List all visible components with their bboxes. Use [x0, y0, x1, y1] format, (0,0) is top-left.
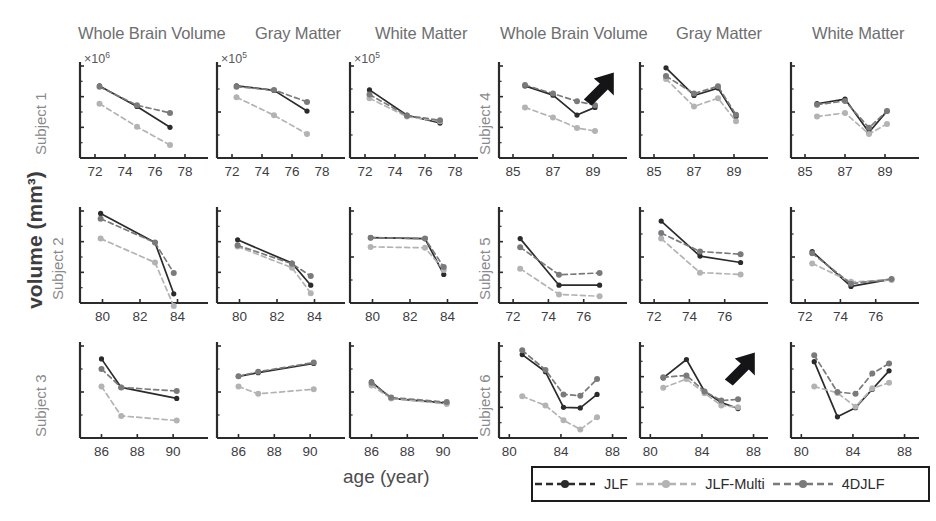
data-point-jlf	[174, 396, 179, 401]
data-point-4djlf	[542, 367, 548, 373]
series-line-jlf	[520, 239, 599, 286]
legend-swatch-jlf-multi	[634, 476, 698, 492]
column-title-whole-brain-volume: Whole Brain Volume	[78, 24, 226, 43]
data-point-4djlf	[235, 242, 241, 248]
x-tick-label: 82	[132, 309, 147, 324]
x-tick-label: 88	[605, 444, 620, 459]
column-title-white-matter: White Matter	[375, 24, 467, 43]
legend-item-jlf: JLF	[533, 476, 634, 492]
x-tick-label: 90	[303, 444, 318, 459]
x-tick-label: 76	[147, 164, 162, 179]
series-line-4djlf	[525, 85, 595, 105]
data-point-jlf	[518, 236, 523, 241]
x-tick-label: 90	[436, 444, 451, 459]
x-tick-label: 80	[365, 309, 380, 324]
subject-label-subject-2: Subject 2	[49, 237, 66, 300]
x-tick-label: 89	[726, 164, 741, 179]
data-point-jlf-multi	[550, 115, 556, 121]
series-line-4djlf	[238, 363, 313, 377]
x-tick-label: 74	[117, 164, 133, 179]
x-tick-label: 72	[357, 164, 372, 179]
data-point-4djlf	[869, 371, 875, 377]
x-tick-label: 80	[95, 309, 110, 324]
data-point-jlf-multi	[255, 391, 261, 397]
x-tick-label: 87	[686, 164, 701, 179]
data-point-jlf-multi	[542, 402, 548, 408]
plot-s2-wm: 4.955.1808284	[348, 207, 486, 327]
subject-label-subject-3: Subject 3	[32, 374, 49, 437]
data-point-jlf-multi	[842, 110, 848, 116]
x-tick-label: 84	[170, 309, 186, 324]
data-point-4djlf	[368, 380, 374, 386]
plot-s3-gm: 6.36.46.5868890	[215, 342, 353, 462]
data-point-4djlf	[663, 73, 669, 79]
data-point-jlf-multi	[519, 393, 525, 399]
data-point-jlf-multi	[577, 426, 583, 432]
x-tick-label: 84	[553, 444, 569, 459]
plot-s2-gm: 6.46.56.66.7808284	[215, 207, 353, 327]
x-tick-label: 80	[794, 444, 809, 459]
data-point-jlf-multi	[271, 112, 277, 118]
data-point-4djlf	[522, 82, 528, 88]
data-point-jlf	[561, 405, 566, 410]
data-point-jlf-multi	[735, 404, 741, 410]
data-point-jlf-multi	[594, 414, 600, 420]
plot-s6-wbv: 1.331.341.351.36808488	[497, 342, 635, 462]
y-axis-label: volume (mm³)	[23, 145, 47, 335]
data-point-jlf-multi	[235, 383, 241, 389]
data-point-4djlf	[97, 84, 103, 90]
data-point-4djlf	[441, 264, 447, 270]
data-point-4djlf	[889, 276, 895, 282]
x-tick-label: 86	[364, 444, 379, 459]
axis-exponent: ×105	[221, 50, 247, 66]
data-point-jlf-multi	[98, 383, 104, 389]
data-point-4djlf	[577, 393, 583, 399]
plot-s6-wm: 4.74.84.9808488	[789, 342, 927, 462]
data-point-4djlf	[367, 92, 373, 98]
legend-item-jlf-multi: JLF-Multi	[634, 476, 771, 492]
data-point-4djlf	[98, 366, 104, 372]
data-point-jlf-multi	[152, 260, 158, 266]
plot-s5-wbv: 1.41.411.421.43727476	[497, 207, 635, 327]
x-tick-label: 74	[682, 309, 698, 324]
x-tick-label: 76	[417, 164, 432, 179]
x-tick-label: 82	[402, 309, 417, 324]
data-point-jlf-multi	[715, 95, 721, 101]
data-point-jlf	[167, 125, 172, 130]
data-point-4djlf	[388, 395, 394, 401]
data-point-4djlf	[697, 248, 703, 254]
data-point-4djlf	[517, 244, 523, 250]
plot-s5-gm: 6.46.56.6727476	[638, 207, 776, 327]
data-point-jlf-multi	[422, 245, 428, 251]
plot-s1-wbv: 1.271.281.291.372747678×106	[78, 62, 216, 182]
x-tick-label: 85	[505, 164, 520, 179]
x-tick-label: 86	[94, 444, 109, 459]
column-title-whole-brain-volume: Whole Brain Volume	[500, 24, 648, 43]
data-point-jlf-multi	[660, 385, 666, 391]
x-tick-label: 88	[400, 444, 415, 459]
data-point-4djlf	[660, 374, 666, 380]
plot-s3-wbv: 1.41.411.42868890	[78, 342, 216, 462]
data-point-4djlf	[271, 87, 277, 93]
x-tick-label: 72	[798, 309, 813, 324]
data-point-jlf-multi	[866, 131, 872, 137]
data-point-4djlf	[733, 112, 739, 118]
data-point-jlf-multi	[171, 303, 177, 309]
x-tick-label: 80	[643, 444, 658, 459]
column-title-white-matter: White Matter	[812, 24, 904, 43]
x-tick-label: 84	[694, 444, 710, 459]
legend-label: JLF-Multi	[705, 476, 765, 492]
x-tick-label: 80	[502, 444, 517, 459]
x-tick-label: 76	[576, 309, 591, 324]
plot-s6-gm: 6.26.36.46.5808488	[638, 342, 776, 462]
data-point-jlf	[235, 237, 240, 242]
data-point-jlf	[659, 219, 664, 224]
series-line-4djlf	[522, 350, 597, 395]
data-point-jlf	[594, 392, 599, 397]
data-point-jlf-multi	[811, 383, 817, 389]
data-point-jlf-multi	[697, 270, 703, 276]
data-point-jlf	[738, 260, 743, 265]
x-tick-label: 85	[797, 164, 812, 179]
x-tick-label: 76	[717, 309, 732, 324]
x-tick-label: 88	[746, 444, 761, 459]
